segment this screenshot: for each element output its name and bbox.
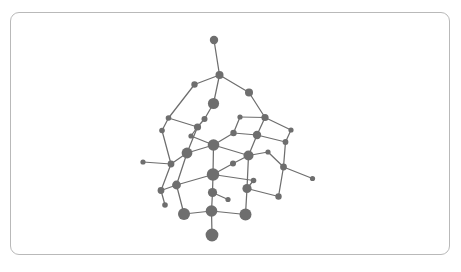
bond xyxy=(195,75,220,85)
bond xyxy=(162,131,171,165)
atom-node[interactable] xyxy=(242,184,251,193)
bond xyxy=(143,162,171,164)
atom-node[interactable] xyxy=(208,98,219,109)
atom-node[interactable] xyxy=(283,139,289,145)
molecular-structure-canvas[interactable] xyxy=(0,0,461,272)
atom-node[interactable] xyxy=(207,168,219,180)
atom-layer xyxy=(140,36,315,242)
atom-node[interactable] xyxy=(288,127,293,132)
atom-node[interactable] xyxy=(178,208,190,220)
bond xyxy=(220,75,250,93)
bond xyxy=(265,118,291,131)
atom-node[interactable] xyxy=(208,188,217,197)
atom-node[interactable] xyxy=(210,36,218,44)
atom-node[interactable] xyxy=(194,123,201,130)
atom-node[interactable] xyxy=(208,139,220,151)
atom-node[interactable] xyxy=(216,71,224,79)
atom-node[interactable] xyxy=(206,205,218,217)
atom-node[interactable] xyxy=(261,114,268,121)
atom-node[interactable] xyxy=(251,178,257,184)
atom-node[interactable] xyxy=(191,81,197,87)
atom-node[interactable] xyxy=(265,149,270,154)
atom-node[interactable] xyxy=(140,159,145,164)
atom-node[interactable] xyxy=(240,209,252,221)
atom-node[interactable] xyxy=(245,89,253,97)
atom-node[interactable] xyxy=(202,116,208,122)
bond xyxy=(284,142,286,167)
atom-node[interactable] xyxy=(166,115,172,121)
structure-viewer xyxy=(0,0,461,272)
bond xyxy=(249,93,265,118)
atom-node[interactable] xyxy=(310,176,315,181)
bond xyxy=(214,40,220,75)
atom-node[interactable] xyxy=(159,128,165,134)
atom-node[interactable] xyxy=(237,114,242,119)
atom-node[interactable] xyxy=(280,164,287,171)
bond xyxy=(161,164,171,191)
atom-node[interactable] xyxy=(158,187,165,194)
atom-node[interactable] xyxy=(230,161,236,167)
atom-node[interactable] xyxy=(253,131,261,139)
bond xyxy=(284,167,313,179)
atom-node[interactable] xyxy=(275,193,281,199)
atom-node[interactable] xyxy=(168,161,175,168)
atom-node[interactable] xyxy=(230,130,236,136)
atom-node[interactable] xyxy=(225,197,230,202)
bond xyxy=(279,167,284,197)
atom-node[interactable] xyxy=(244,151,254,161)
atom-node[interactable] xyxy=(206,229,219,242)
bond xyxy=(169,85,195,119)
atom-node[interactable] xyxy=(172,181,181,190)
bond xyxy=(240,117,265,118)
atom-node[interactable] xyxy=(182,148,193,159)
atom-node[interactable] xyxy=(188,133,193,138)
bond-layer xyxy=(143,40,313,235)
bond xyxy=(169,118,198,127)
bond xyxy=(257,135,286,142)
bond xyxy=(247,189,279,197)
atom-node[interactable] xyxy=(162,202,168,208)
